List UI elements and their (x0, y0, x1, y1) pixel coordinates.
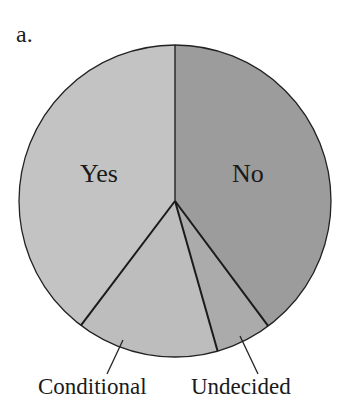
label-no: No (232, 159, 264, 188)
label-yes: Yes (80, 159, 118, 188)
pie-chart: a. Yes No Conditional Undecided (0, 0, 344, 416)
label-conditional: Conditional (38, 374, 147, 399)
label-undecided: Undecided (191, 374, 291, 399)
panel-label: a. (16, 21, 33, 47)
callout-line-undecided (240, 336, 258, 374)
